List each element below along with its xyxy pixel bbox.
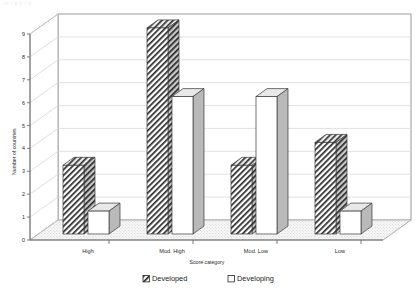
bar-chart-figure: 0 1 2 3 4 5 6 7 8 9 Number of countries [0,0,420,293]
legend-item-developed[interactable]: Developed [143,274,187,283]
plot-left-wall [30,14,58,240]
x-label-low: Low [335,248,346,254]
y-tick-7: 7 [22,77,25,83]
bar-modhigh-developing[interactable] [172,89,204,234]
legend-item-developing[interactable]: Developing [228,274,274,283]
y-tick-2: 2 [22,191,25,197]
y-tick-9: 9 [22,31,25,37]
y-tick-8: 8 [22,54,25,60]
y-tick-labels: 0 1 2 3 4 5 6 7 8 9 [22,31,25,243]
y-tick-5: 5 [22,123,25,129]
y-tick-6: 6 [22,100,25,106]
y-axis-title: Number of countries [11,128,17,175]
y-tick-3: 3 [22,168,25,174]
bar-modlow-developing[interactable] [256,89,288,234]
x-label-mod-low: Mod. Low [244,248,269,254]
x-axis [30,240,383,244]
x-label-mod-high: Mod. High [159,248,185,254]
x-label-high: High [82,248,94,254]
y-tick-0: 0 [22,237,25,243]
y-tick-1: 1 [22,214,25,220]
bar-low-developing[interactable] [340,203,372,234]
x-tick-labels: High Mod. High Mod. Low Low [82,248,346,254]
legend-label-developed: Developed [152,274,187,283]
bar-high-developing[interactable] [88,203,120,234]
y-axis [27,34,30,240]
y-tick-4: 4 [22,145,25,151]
x-axis-title: Score category [190,259,225,265]
legend-label-developing: Developing [237,274,274,283]
chart-legend: Developed Developing [143,274,274,283]
